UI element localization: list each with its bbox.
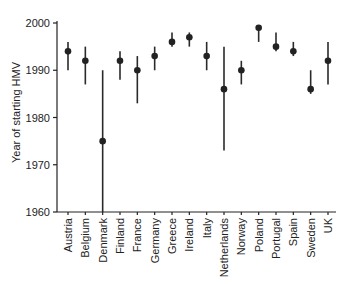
data-point-group <box>255 24 262 41</box>
y-tick-label: 1970 <box>26 159 50 171</box>
x-category-label: Finland <box>114 218 126 254</box>
data-point-group <box>151 47 158 71</box>
x-category-label: Denmark <box>97 218 109 263</box>
y-axis: 19601970198019902000 <box>26 17 57 218</box>
y-tick-label: 2000 <box>26 17 50 29</box>
data-point-group <box>221 47 228 151</box>
data-point <box>99 138 106 145</box>
data-point <box>186 34 193 41</box>
x-category-label: Austria <box>62 217 74 252</box>
data-point-group <box>203 42 210 70</box>
x-category-label: Germany <box>149 218 161 264</box>
data-point-group <box>134 56 141 103</box>
data-point <box>82 58 89 65</box>
data-point <box>238 67 245 74</box>
x-category-label: Belgium <box>79 218 91 258</box>
data-point <box>117 58 124 65</box>
y-tick-label: 1960 <box>26 206 50 218</box>
data-point <box>255 24 262 31</box>
data-point <box>273 43 280 50</box>
x-category-label: Greece <box>166 218 178 254</box>
data-point-group <box>273 32 280 51</box>
y-tick-label: 1990 <box>26 64 50 76</box>
plot-area <box>65 24 332 212</box>
data-point-group <box>169 32 176 46</box>
x-category-label: Netherlands <box>218 218 230 278</box>
data-point <box>325 58 332 65</box>
data-point-group <box>325 42 332 85</box>
data-point-group <box>65 42 72 70</box>
x-category-label: Poland <box>253 218 265 252</box>
data-point <box>151 53 158 60</box>
data-point-group <box>117 51 124 79</box>
x-category-label: Portugal <box>270 218 282 259</box>
x-category-label: Ireland <box>183 218 195 252</box>
data-point <box>290 48 297 55</box>
x-axis: AustriaBelgiumDenmarkFinlandFranceGerman… <box>57 212 336 277</box>
y-axis-title: Year of starting HMV <box>10 61 22 163</box>
data-point-group <box>186 32 193 46</box>
data-point-group <box>307 70 314 94</box>
data-point <box>134 67 141 74</box>
x-category-label: Italy <box>201 218 213 239</box>
data-point <box>65 48 72 55</box>
data-point <box>221 86 228 93</box>
data-point-group <box>238 61 245 85</box>
data-point-group <box>99 70 106 212</box>
x-category-label: Spain <box>287 218 299 246</box>
data-point <box>307 86 314 93</box>
x-category-label: Sweden <box>305 218 317 258</box>
data-point-group <box>82 47 89 85</box>
data-point-group <box>290 42 297 56</box>
y-tick-label: 1980 <box>26 112 50 124</box>
x-category-label: UK <box>322 217 334 233</box>
x-category-label: Norway <box>235 218 247 256</box>
x-category-label: France <box>131 218 143 252</box>
data-point <box>203 53 210 60</box>
data-point <box>169 39 176 46</box>
dot-error-bar-chart: 19601970198019902000 AustriaBelgiumDenma… <box>0 0 351 285</box>
